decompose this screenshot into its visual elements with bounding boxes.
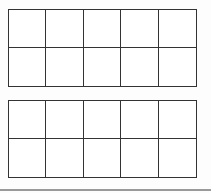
- frame-cell: [159, 48, 196, 86]
- frame-cell: [46, 48, 83, 86]
- frame-cell: [159, 10, 196, 48]
- frame-cell: [46, 101, 83, 139]
- frame-cell: [159, 139, 196, 177]
- frame-cell: [159, 101, 196, 139]
- bottom-divider: [0, 189, 211, 191]
- frame-cell: [84, 48, 121, 86]
- frame-cell: [121, 10, 158, 48]
- frame-cell: [9, 10, 46, 48]
- frame-cell: [9, 101, 46, 139]
- frame-cell: [84, 101, 121, 139]
- frame-cell: [46, 10, 83, 48]
- frame-cell: [9, 139, 46, 177]
- frame-cell: [46, 139, 83, 177]
- ten-frame-1: [8, 9, 197, 87]
- ten-frame-2: [8, 100, 197, 178]
- frame-cell: [121, 48, 158, 86]
- frame-cell: [121, 101, 158, 139]
- frame-cell: [84, 139, 121, 177]
- frame-cell: [121, 139, 158, 177]
- frame-cell: [84, 10, 121, 48]
- frame-cell: [9, 48, 46, 86]
